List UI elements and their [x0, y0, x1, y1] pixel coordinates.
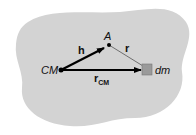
label-r-cm: rCM [94, 73, 109, 86]
label-cm: CM [41, 65, 58, 76]
mass-element-dm [142, 64, 152, 75]
label-r-cm-subscript: CM [98, 79, 109, 86]
point-a [107, 43, 111, 47]
label-h: h [78, 45, 85, 56]
label-r: r [125, 43, 129, 54]
label-dm: dm [155, 65, 170, 76]
cm-point [59, 68, 64, 73]
diagram: CM A h r rCM dm [0, 0, 196, 135]
label-a: A [104, 31, 111, 42]
